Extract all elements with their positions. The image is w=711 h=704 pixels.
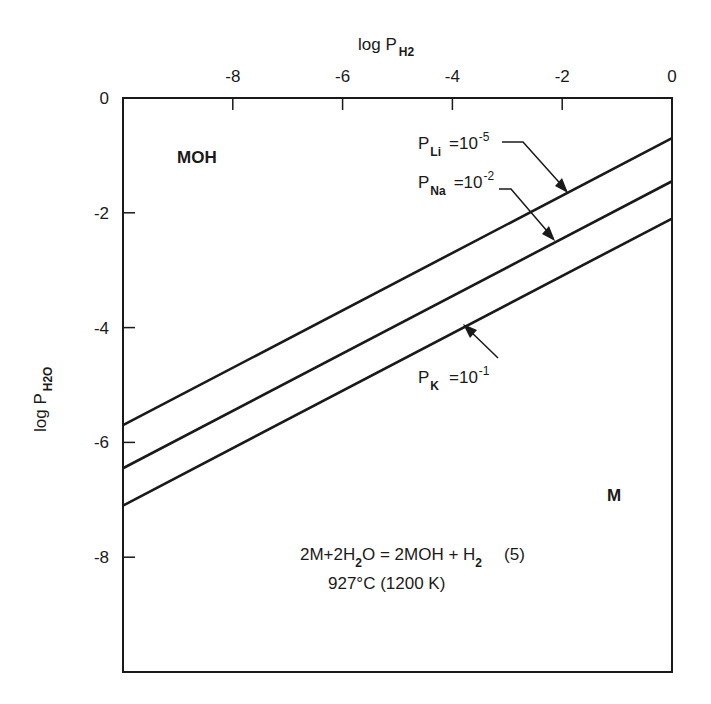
reaction-equation: 2M+2H2O = 2MOH + H2(5) bbox=[300, 545, 525, 570]
y-tick-label: 0 bbox=[100, 89, 109, 108]
y-axis-title: log PH2O bbox=[31, 367, 55, 432]
chart-svg: -8-6-4-20 0-2-4-6-8 log PH2 log PH2O PLi… bbox=[0, 0, 711, 704]
x-tick-label: 0 bbox=[667, 67, 676, 86]
series-line-li bbox=[123, 138, 672, 425]
x-tick-label: -4 bbox=[445, 67, 460, 86]
li-line-label: PLi=10-5 bbox=[418, 130, 490, 159]
y-tick-label: -2 bbox=[94, 204, 109, 223]
temperature-condition: 927°C (1200 K) bbox=[328, 574, 445, 593]
x-axis-ticks: -8-6-4-20 bbox=[225, 67, 676, 110]
region-label-moh: MOH bbox=[177, 148, 217, 167]
series-lines bbox=[123, 138, 672, 505]
x-tick-label: -8 bbox=[225, 67, 240, 86]
na-line-label: PNa=10-2 bbox=[418, 169, 495, 198]
x-axis-title: log PH2 bbox=[358, 35, 414, 59]
y-tick-label: -8 bbox=[94, 548, 109, 567]
x-tick-label: -2 bbox=[555, 67, 570, 86]
x-tick-label: -6 bbox=[335, 67, 350, 86]
series-line-na bbox=[123, 181, 672, 468]
region-label-m: M bbox=[607, 486, 621, 505]
series-line-k bbox=[123, 219, 672, 506]
y-tick-label: -4 bbox=[94, 319, 109, 338]
y-tick-label: -6 bbox=[94, 433, 109, 452]
y-axis-ticks: 0-2-4-6-8 bbox=[94, 89, 135, 567]
li-arrow-line bbox=[502, 142, 566, 190]
k-line-label: PK=10-1 bbox=[418, 364, 490, 393]
